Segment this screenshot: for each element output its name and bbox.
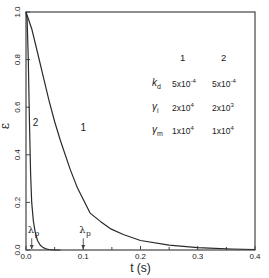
y-tick-label: 0.2 [13, 196, 22, 208]
lambda-p-subscript: p [86, 229, 91, 238]
x-tick-label: 0.4 [249, 252, 261, 261]
x-tick-label: 0.0 [20, 252, 32, 261]
arrow-head-icon [81, 245, 85, 249]
series-line-1 [26, 12, 255, 250]
series-lines: 12 [26, 12, 255, 250]
y-axis-label: ε [0, 123, 12, 129]
series-line-2 [26, 12, 60, 250]
lambda-p-subscript: p [35, 229, 40, 238]
y-tick-label: 1.0 [13, 6, 22, 18]
y-tick-label: 0.0 [13, 244, 22, 256]
lambda-p-label: λ [79, 224, 86, 235]
series-label-1: 1 [80, 122, 86, 133]
annotations: λpλp [28, 224, 92, 249]
x-axis-label: t (s) [130, 261, 151, 275]
series-label-2: 2 [33, 117, 39, 128]
lambda-p-label: λ [28, 224, 35, 235]
arrow-head-icon [30, 245, 34, 249]
y-tick-label: 0.8 [13, 53, 22, 65]
y-tick-label: 0.4 [13, 149, 22, 161]
y-tick-label: 0.6 [13, 101, 22, 113]
ticks: 0.00.10.20.30.40.00.20.40.60.81.0 [13, 6, 261, 261]
x-tick-label: 0.3 [192, 252, 204, 261]
axes [26, 12, 255, 250]
x-tick-label: 0.2 [135, 252, 147, 261]
x-tick-label: 0.1 [78, 252, 90, 261]
decay-chart: 0.00.10.20.30.40.00.20.40.60.81.0 12 λpλ… [0, 0, 269, 278]
plot-frame [26, 12, 255, 250]
